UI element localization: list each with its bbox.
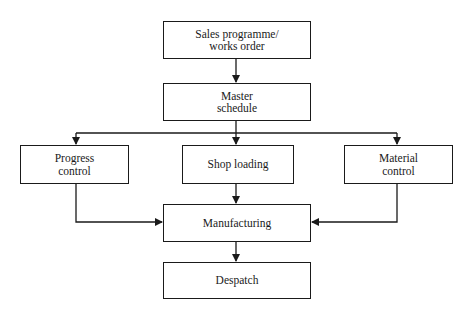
node-label: Manufacturing — [203, 217, 271, 230]
node-material-control: Material control — [344, 145, 453, 184]
node-despatch: Despatch — [163, 262, 311, 299]
node-label: Despatch — [216, 274, 259, 287]
node-manufacturing: Manufacturing — [163, 204, 311, 242]
node-label: Shop loading — [207, 158, 268, 171]
node-progress-control: Progress control — [20, 145, 129, 184]
node-label: Material control — [379, 152, 418, 177]
node-label: Progress control — [55, 152, 95, 177]
node-label: Master schedule — [217, 90, 257, 115]
edge-progress-manufacturing — [76, 184, 162, 222]
edge-material-manufacturing — [312, 184, 397, 222]
node-shop-loading: Shop loading — [182, 145, 294, 184]
node-master-schedule: Master schedule — [163, 83, 311, 121]
node-sales-programme: Sales programme/ works order — [163, 21, 311, 59]
node-label: Sales programme/ works order — [195, 28, 278, 53]
